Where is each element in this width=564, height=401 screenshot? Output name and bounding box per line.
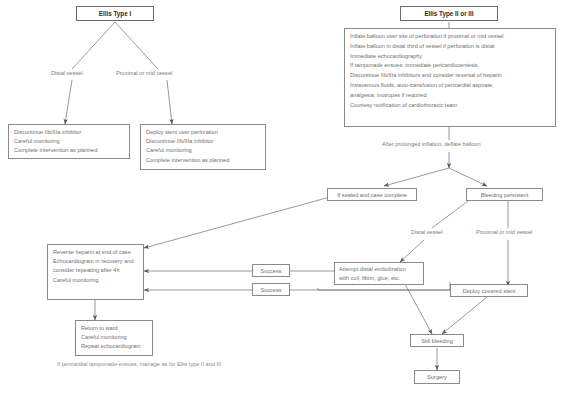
return-to-ward-line-3: Repeat echocardiogram — [81, 342, 147, 351]
ellis-type-1-label: Ellis Type I — [99, 10, 131, 17]
edge-covered-stent-to-still-bleeding — [442, 297, 487, 334]
node-surgery[interactable]: Surgery — [414, 370, 460, 384]
type1-distal-line-2: Careful monitoring — [14, 137, 124, 146]
type1-proximal-line-1: Deploy stent over perforation — [146, 128, 260, 137]
bleeding-persistent-label: Bleeding persistent — [481, 192, 529, 198]
node-ellis-type-2-3[interactable]: Ellis Type II or III — [400, 6, 498, 21]
edge-label-bleeding-proximal: Proximal or mid vessel — [476, 229, 532, 235]
return-to-ward-line-1: Return to ward — [81, 324, 147, 333]
type1-distal-line-3: Complete intervention as planned — [14, 146, 124, 155]
edge-distal-label-to-box — [65, 80, 72, 124]
node-type1-distal-actions[interactable]: Discontinue IIb/IIIa inhibitor Careful m… — [8, 124, 130, 159]
edge-label-bleeding-distal: Distal vessel — [411, 229, 442, 235]
still-bleeding-label: Still bleeding — [421, 338, 453, 344]
node-still-bleeding[interactable]: Still bleeding — [410, 334, 464, 347]
deflate-balloon-label: After prolonged inflation, deflate ballo… — [382, 141, 481, 147]
type23-line-5: Discontinue IIb/IIIa inhibitors and cons… — [350, 71, 550, 81]
edge-type1-to-proximal-label — [115, 22, 158, 69]
node-bleeding-persistent[interactable]: Bleeding persistent — [466, 188, 543, 201]
type23-line-2: Inflate balloon in distal third of vesse… — [350, 42, 550, 52]
deflate-balloon-text: After prolonged inflation, deflate ballo… — [382, 141, 481, 147]
edge-embolization-to-still-bleeding — [405, 284, 432, 334]
type23-line-4: If tamponade ensues: immediate pericardi… — [350, 61, 550, 71]
edge-type1-to-distal-label — [72, 22, 115, 69]
edge-sealed-to-reverse-heparin — [144, 197, 330, 248]
embolization-line-2: with coil, fibrin, glue, etc. — [339, 274, 419, 283]
success-1-label: Success — [260, 268, 281, 274]
surgery-label: Surgery — [427, 374, 447, 380]
reverse-heparin-line-3: consider repeating after 4h — [53, 266, 138, 275]
node-reverse-heparin[interactable]: Reverse heparin at end of case Echocardi… — [47, 244, 144, 300]
node-if-sealed-case-complete[interactable]: If sealed and case complete — [327, 188, 417, 201]
type1-proximal-line-2: Discontinue IIb/IIIa inhibitor — [146, 137, 260, 146]
success-2-label: Success — [260, 287, 281, 293]
node-type23-actions[interactable]: Inflate balloon over site of perforation… — [344, 28, 556, 127]
edge-bleeding-to-distal-label — [432, 201, 468, 228]
type1-proximal-line-3: Careful monitoring — [146, 146, 260, 155]
edge-distal-to-embolization — [400, 240, 424, 262]
embolization-line-1: Attempt distal embolization — [339, 265, 419, 274]
node-type1-proximal-actions[interactable]: Deploy stent over perforation Discontinu… — [140, 124, 266, 170]
edge-to-bleeding — [449, 168, 487, 186]
type23-line-1: Inflate balloon over site of perforation… — [350, 32, 550, 42]
reverse-heparin-line-1: Reverse heparin at end of case — [53, 248, 138, 257]
node-deploy-covered-stent[interactable]: Deploy covered stent — [450, 284, 528, 297]
type1-distal-vessel-text: Distal vessel — [51, 70, 82, 76]
node-return-to-ward[interactable]: Return to ward Careful monitoring Repeat… — [75, 320, 153, 356]
footnote-pericardial-tamponade: If pericardial tamponade ensues, manage … — [57, 361, 221, 367]
node-attempt-distal-embolization[interactable]: Attempt distal embolization with coil, f… — [334, 262, 424, 285]
type23-line-7: analgesia, inotropes if required — [350, 91, 550, 101]
edge-proximal-label-to-box — [167, 80, 172, 124]
edge-label-type1-distal: Distal vessel — [51, 70, 82, 76]
ellis-type-2-3-label: Ellis Type II or III — [424, 10, 473, 17]
reverse-heparin-line-4: Careful monitoring — [53, 276, 138, 285]
node-success-1[interactable]: Success — [252, 264, 290, 277]
reverse-heparin-line-2: Echocardiogram in recovery and — [53, 257, 138, 266]
type23-line-8: Courtesy notification of cardiothoracic … — [350, 101, 550, 111]
if-sealed-label: If sealed and case complete — [337, 192, 407, 198]
footnote-label: If pericardial tamponade ensues, manage … — [57, 361, 221, 367]
edge-label-type1-proximal: Proximal or mid vessel — [116, 70, 172, 76]
type23-line-3: Immediate echocardiography — [350, 52, 550, 62]
covered-stent-label: Deploy covered stent — [463, 288, 516, 294]
node-ellis-type-1[interactable]: Ellis Type I — [76, 6, 154, 21]
flowchart-canvas: Ellis Type I Ellis Type II or III Discon… — [0, 0, 564, 401]
type1-proximal-line-4: Complete intervention as planned — [146, 156, 260, 165]
bleeding-proximal-vessel-text: Proximal or mid vessel — [476, 229, 532, 235]
type1-distal-line-1: Discontinue IIb/IIIa inhibitor — [14, 128, 124, 137]
edge-to-sealed — [384, 168, 449, 186]
node-success-2[interactable]: Success — [252, 283, 290, 296]
type23-line-6: Intravenous fluids, auto-transfusion of … — [350, 81, 550, 91]
type1-proximal-vessel-text: Proximal or mid vessel — [116, 70, 172, 76]
return-to-ward-line-2: Careful monitoring — [81, 333, 147, 342]
bleeding-distal-vessel-text: Distal vessel — [411, 229, 442, 235]
